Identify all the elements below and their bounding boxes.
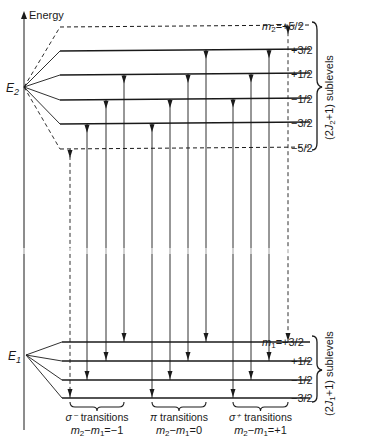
arrowhead-icon — [168, 371, 173, 379]
sublevel-label: −1/2 — [291, 374, 313, 386]
upper-sublevel-brace: (2J2+1) sublevels — [312, 22, 337, 150]
arrowhead-icon — [150, 124, 155, 132]
arrowhead-icon — [267, 352, 272, 360]
transition-sigma-minus — [104, 100, 109, 361]
arrowhead-icon — [122, 75, 127, 83]
group-brace — [70, 402, 124, 411]
arrowhead-icon — [249, 371, 254, 379]
e1-label: E1 — [8, 349, 21, 365]
transition-pi — [168, 99, 173, 380]
sublevel-label: −5/2 — [291, 142, 313, 154]
group-brace — [152, 402, 206, 411]
sublevel-label: +3/2 — [291, 44, 313, 56]
arrowhead-icon — [186, 75, 191, 83]
sublevel-lower: −1/2 — [26, 355, 313, 386]
arrowhead-icon — [168, 100, 173, 108]
arrowhead-icon — [104, 101, 109, 109]
group-rule: m2−m1=0 — [156, 424, 202, 438]
group-sigma-plus: σ⁺ transitionsm2−m1=+1 — [229, 402, 292, 438]
axis-arrow-icon — [21, 11, 27, 19]
sublevel-label: +1/2 — [291, 68, 313, 80]
transition-sigma-plus — [249, 73, 254, 380]
arrowhead-icon — [249, 74, 254, 82]
transition-groups: σ⁻ transitionsm2−m1=−1π transitionsm2−m1… — [65, 402, 292, 438]
sublevel-label: m1=+3/2 — [262, 336, 304, 350]
group-sigma-minus: σ⁻ transitionsm2−m1=−1 — [65, 402, 128, 438]
arrowhead-icon — [68, 150, 73, 158]
lower-sublevel-brace: (2J1+1) sublevels — [312, 331, 337, 416]
transition-pi — [186, 74, 191, 361]
arrowhead-icon — [186, 352, 191, 360]
zeeman-energy-diagram: Energy m2=+5/2+3/2+1/2−1/2−3/2−5/2 E2 m1… — [0, 0, 373, 438]
arrowhead-icon — [68, 389, 73, 397]
lower-brace-label: (2J1+1) sublevels — [323, 331, 337, 416]
group-brace — [233, 402, 288, 411]
transition-sigma-plus — [267, 49, 272, 361]
sublevel-upper: m2=+5/2 — [24, 20, 310, 87]
transition-pi — [204, 50, 209, 342]
group-title: σ⁻ transitions — [65, 411, 128, 423]
group-pi: π transitionsm2−m1=0 — [150, 402, 208, 438]
group-rule: m2−m1=+1 — [234, 424, 287, 438]
transition-sigma-minus — [122, 74, 127, 342]
group-rule: m2−m1=−1 — [71, 424, 124, 438]
arrowhead-icon — [231, 100, 236, 108]
arrowhead-icon — [204, 333, 209, 341]
e2-label: E2 — [6, 81, 19, 97]
arrowhead-icon — [104, 352, 109, 360]
arrowhead-icon — [122, 333, 127, 341]
sublevel-label: −1/2 — [291, 93, 313, 105]
sublevel-label: −3/2 — [291, 392, 313, 404]
group-title: π transitions — [150, 411, 208, 423]
arrowhead-icon — [204, 51, 209, 59]
arrowhead-icon — [85, 125, 90, 133]
sublevel-label: +1/2 — [291, 355, 313, 367]
sublevel-label: m2=+5/2 — [262, 20, 304, 34]
transition-pi — [150, 123, 155, 398]
arrowhead-icon — [150, 389, 155, 397]
arrowhead-icon — [85, 371, 90, 379]
arrowhead-icon — [267, 50, 272, 58]
arrowhead-icon — [231, 389, 236, 397]
group-title: σ⁺ transitions — [229, 411, 292, 423]
sublevel-label: −3/2 — [291, 117, 313, 129]
upper-brace-label: (2J2+1) sublevels — [323, 55, 337, 140]
axis-label: Energy — [29, 9, 64, 21]
